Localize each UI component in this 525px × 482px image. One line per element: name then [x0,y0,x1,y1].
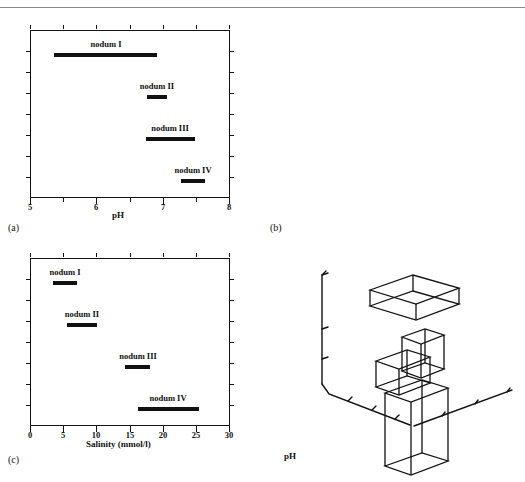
panel-c-ytick [26,300,30,301]
panel-c-xticklabel: 5 [55,430,71,440]
panel-a-xtick-minor [130,198,131,202]
panel-c-top-tick [196,253,197,257]
panel-a-xtick-minor [63,198,64,202]
panel-a-bar-nodum-iii [146,137,195,141]
panel-c-ytick [26,342,30,343]
panel-d-ph-axis-title: pH [284,451,296,461]
panel-a-ytick-right [230,51,234,52]
panel-c-ytick-right [230,279,234,280]
panel-a-xticklabel: 7 [155,202,171,212]
panel-a-top-tick [229,25,230,29]
panel-b-hco3-chart: 0 1 2 3 4 5 6 7 8 HCO3- (mmol/l) nodum I… [262,10,525,242]
panel-a-top-tick [130,25,131,29]
panel-c-ytick-right [230,342,234,343]
panel-a-top-tick [96,25,97,29]
panel-a-barlabel-nodum-i: nodum I [70,39,142,49]
panel-c-ytick [26,279,30,280]
panel-a-ytick [26,72,30,73]
panel-a-top-tick [163,25,164,29]
panel-c-xticklabel: 20 [155,430,171,440]
panel-a-xtick-minor [196,198,197,202]
panel-a-axis-title: pH [112,210,124,220]
panel-a-ytick [26,156,30,157]
panel-c-axis-title: Salinity (mmol/l) [86,439,151,449]
panel-c-ytick-right [230,363,234,364]
panel-a-xticklabel: 8 [221,202,237,212]
panel-c-xticklabel: 25 [188,430,204,440]
panel-a-ytick-right [230,93,234,94]
panel-c-ytick [26,321,30,322]
panel-c-barlabel-nodum-i: nodum I [29,267,101,277]
panel-c-bar-nodum-ii [67,323,97,327]
panel-c-barlabel-nodum-iii: nodum III [102,351,174,361]
panel-c-ytick-right [230,321,234,322]
panel-c-top-tick [96,253,97,257]
panel-a-letter: (a) [8,222,19,233]
panel-c-top-tick [130,253,131,257]
panel-a-ytick-right [230,177,234,178]
panel-c-bar-nodum-i [53,281,77,285]
panel-c-ytick [26,384,30,385]
panel-a-xticklabel: 6 [88,202,104,212]
panel-c-barlabel-nodum-ii: nodum II [46,309,118,319]
panel-a-top-tick [30,25,31,29]
panel-d-box-nodum-i [385,380,448,475]
panel-a-bar-nodum-ii [147,95,167,99]
panel-a-bar-nodum-i [54,53,157,57]
panel-b-letter: (b) [270,222,282,233]
panel-d-box-nodum-iii [402,329,444,378]
panel-c-barlabel-nodum-iv: nodum IV [132,393,204,403]
panel-a-ytick [26,135,30,136]
panel-a-ph-chart: 5 6 7 8 pH nodum I nodum II nodum III no… [0,10,262,242]
panel-a-barlabel-nodum-ii: nodum II [121,81,193,91]
panel-c-bar-nodum-iii [125,365,150,369]
panel-c-salinity-chart: 0 5 10 15 20 25 30 Salinity (mmol/l) nod… [0,242,262,482]
panel-a-ytick [26,114,30,115]
panel-c-ytick [26,363,30,364]
panel-d-3d-svg [262,242,525,482]
panel-c-ytick-right [230,405,234,406]
panel-a-xticklabel: 5 [22,202,38,212]
panel-a-ytick [26,93,30,94]
panel-c-top-tick [63,253,64,257]
panel-a-ytick-right [230,72,234,73]
panel-c-bar-nodum-iv [138,407,199,411]
panel-c-ytick-right [230,300,234,301]
panel-d-box-nodum-iv [370,275,459,320]
panel-a-ytick-right [230,114,234,115]
panel-c-top-tick [30,253,31,257]
panel-d-axes [322,271,512,426]
panel-c-ytick-right [230,384,234,385]
panel-a-barlabel-nodum-iv: nodum IV [157,165,229,175]
panel-c-letter: (c) [8,454,19,465]
panel-a-top-tick [196,25,197,29]
panel-a-barlabel-nodum-iii: nodum III [134,123,206,133]
panel-a-bar-nodum-iv [181,179,205,183]
panel-a-ytick [26,51,30,52]
page-top-rule [0,7,525,8]
panel-a-ytick-right [230,135,234,136]
panel-a-ytick [26,177,30,178]
panel-c-top-tick [229,253,230,257]
panel-d-3d-chart: pH 8 7 6 6 4 2 0 0 10 20 30 Alkalinity (… [262,242,525,482]
panel-c-top-tick [163,253,164,257]
panel-a-top-tick [63,25,64,29]
panel-c-ytick [26,405,30,406]
panel-c-xticklabel: 0 [22,430,38,440]
panel-a-ytick-right [230,156,234,157]
panel-c-xticklabel: 30 [221,430,237,440]
